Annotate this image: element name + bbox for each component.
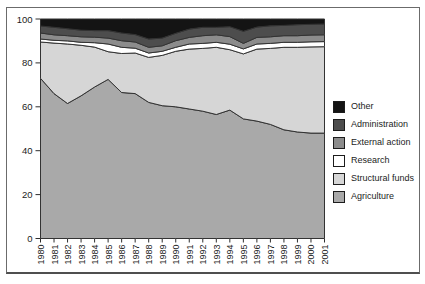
legend-swatch-icon	[333, 137, 345, 149]
x-tick-label: 1990	[171, 245, 181, 265]
x-tick-label: 1996	[252, 245, 262, 265]
legend-swatch-icon	[333, 119, 345, 131]
x-tick-label: 1984	[90, 245, 100, 265]
x-tick-label: 1995	[239, 245, 249, 265]
y-tick-label: 20	[22, 189, 33, 200]
x-tick-label: 2001	[320, 245, 330, 265]
legend-swatch-icon	[333, 155, 345, 167]
x-tick-label: 1994	[225, 245, 235, 265]
x-tick-label: 1983	[77, 245, 87, 265]
y-tick-label: 80	[22, 57, 33, 68]
legend-item-external-action: External action	[333, 137, 414, 148]
legend-swatch-icon	[333, 191, 345, 203]
x-tick-label: 1980	[36, 245, 46, 265]
legend-swatch-icon	[333, 173, 345, 185]
legend: OtherAdministrationExternal actionResear…	[333, 101, 414, 209]
legend-swatch-icon	[333, 101, 345, 113]
legend-label: Agriculture	[351, 191, 394, 202]
x-tick-label: 1998	[279, 245, 289, 265]
legend-item-administration: Administration	[333, 119, 414, 130]
legend-item-research: Research	[333, 155, 414, 166]
x-tick-label: 2000	[306, 245, 316, 265]
x-tick-label: 1989	[158, 245, 168, 265]
x-tick-label: 1988	[144, 245, 154, 265]
legend-label: Research	[351, 155, 390, 166]
y-tick-label: 0	[27, 233, 32, 244]
x-tick-label: 1985	[104, 245, 114, 265]
y-tick-label: 40	[22, 145, 33, 156]
legend-label: Administration	[351, 119, 408, 130]
x-tick-label: 1981	[50, 245, 60, 265]
y-tick-label: 60	[22, 101, 33, 112]
legend-label: Structural funds	[351, 173, 414, 184]
x-tick-label: 1999	[293, 245, 303, 265]
x-tick-label: 1991	[185, 245, 195, 265]
legend-item-other: Other	[333, 101, 414, 112]
legend-label: Other	[351, 101, 374, 112]
y-tick-label: 100	[17, 14, 33, 25]
x-tick-label: 1993	[212, 245, 222, 265]
plot-areas	[41, 19, 325, 239]
legend-label: External action	[351, 137, 411, 148]
x-tick-label: 1987	[131, 245, 141, 265]
x-tick-label: 1997	[266, 245, 276, 265]
legend-item-agriculture: Agriculture	[333, 191, 414, 202]
x-tick-label: 1986	[117, 245, 127, 265]
x-tick-label: 1982	[63, 245, 73, 265]
legend-item-structural-funds: Structural funds	[333, 173, 414, 184]
figure: 0204060801001980198119821983198419851986…	[0, 0, 425, 284]
x-tick-label: 1992	[198, 245, 208, 265]
